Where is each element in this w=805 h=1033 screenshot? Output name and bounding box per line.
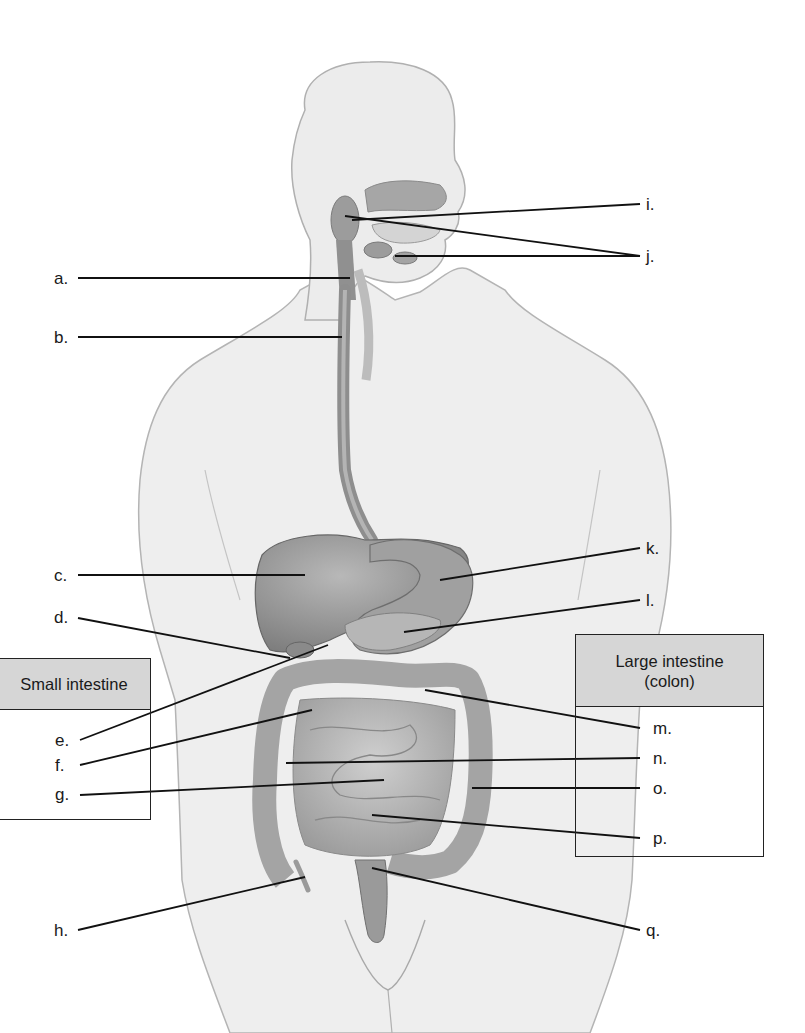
label-a: a.	[54, 270, 68, 288]
digestive-system-diagram: a. b. c. d. e. f. g. h. i. j. k. l. m. n…	[0, 0, 805, 1033]
label-l: l.	[646, 592, 655, 610]
label-k: k.	[646, 540, 659, 558]
label-b: b.	[54, 329, 68, 347]
small-intestine-title: Small intestine	[20, 674, 127, 694]
label-i: i.	[646, 196, 655, 214]
large-intestine-subtitle: (colon)	[644, 671, 694, 691]
large-intestine-group-box: Large intestine (colon)	[575, 634, 764, 857]
nasal-cavity	[365, 181, 446, 212]
submandibular-gland	[364, 242, 392, 258]
label-j: j.	[646, 248, 655, 266]
sublingual-gland	[393, 252, 417, 264]
small-intestine	[293, 698, 455, 856]
small-intestine-group-box: Small intestine	[0, 658, 151, 820]
label-h: h.	[54, 922, 68, 940]
label-q: q.	[646, 922, 660, 940]
label-d: d.	[54, 609, 68, 627]
large-intestine-box-header: Large intestine (colon)	[576, 635, 763, 707]
small-intestine-box-header: Small intestine	[0, 659, 150, 710]
large-intestine-title: Large intestine	[615, 651, 723, 671]
label-c: c.	[54, 567, 67, 585]
